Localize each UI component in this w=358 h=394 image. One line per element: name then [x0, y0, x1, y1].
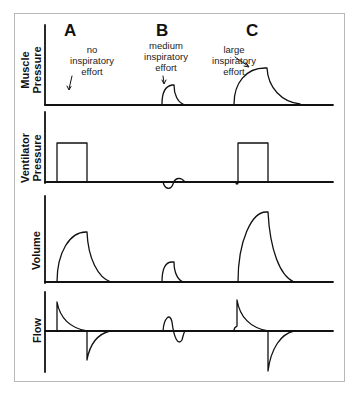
ventilator-square-a [57, 143, 87, 182]
ventilator-square-c [238, 143, 268, 182]
volume-curve-b [162, 262, 183, 282]
ventilator-pressure-panel [45, 112, 333, 188]
flow-wiggle-b [163, 317, 185, 342]
waveform-plot [0, 0, 358, 394]
muscle-curve-c [234, 68, 300, 104]
flow-expiratory-c [268, 331, 294, 371]
arrow-c-icon [235, 57, 248, 66]
ventilator-wiggle-b [163, 178, 185, 188]
ventilation-waveform-diagram: A B C no inspiratory effort medium inspi… [0, 0, 358, 394]
flow-expiratory-a [87, 331, 110, 360]
ventilator-trigger-dot-c [236, 182, 238, 184]
volume-curve-c [238, 212, 294, 282]
volume-panel [45, 196, 333, 283]
muscle-pressure-panel [45, 25, 333, 105]
volume-curve-a [57, 232, 111, 282]
muscle-curve-b [162, 85, 183, 104]
flow-inspiratory-a [57, 302, 87, 331]
flow-panel [45, 292, 333, 372]
flow-inspiratory-c [234, 300, 268, 331]
